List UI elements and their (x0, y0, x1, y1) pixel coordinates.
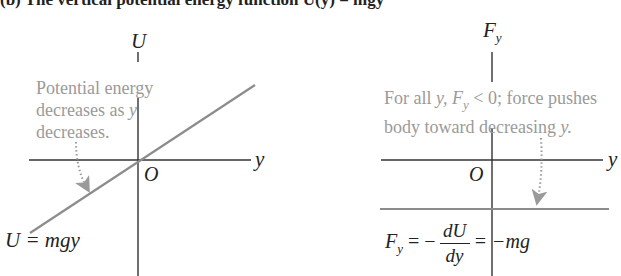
force-equation: Fy = −dUdy= −mg (385, 221, 530, 266)
left-dotted-arrow (76, 142, 86, 186)
left-annotation-line-3: decreases. (36, 121, 153, 143)
right-axis-y-label: y (608, 147, 617, 172)
right-annotation: For all y, Fy < 0; force pushes body tow… (384, 87, 597, 138)
right-annotation-line-2: body toward decreasing y. (384, 116, 597, 138)
left-annotation-line-1: Potential energy (36, 77, 153, 99)
derivative-fraction: dUdy (440, 221, 470, 266)
right-origin-label: O (469, 163, 483, 186)
right-dotted-arrow (538, 138, 542, 198)
potential-energy-equation: U = mgy (5, 228, 80, 253)
left-axis-u-label: U (131, 29, 146, 54)
right-annotation-line-1: For all y, Fy < 0; force pushes (384, 87, 597, 116)
left-axis-y-label: y (255, 147, 264, 172)
left-annotation: Potential energy decreases as y decrease… (36, 77, 153, 143)
right-axis-fy-label: Fy (483, 18, 502, 46)
left-origin-label: O (144, 163, 158, 186)
left-annotation-line-2: decreases as y (36, 99, 153, 121)
